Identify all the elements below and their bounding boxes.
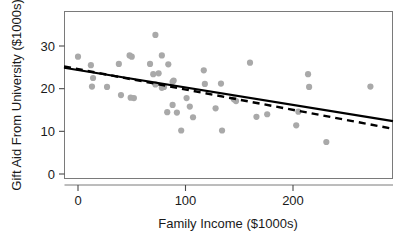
y-axis-tick-label: 20 xyxy=(41,81,55,96)
data-point xyxy=(127,52,133,58)
data-point xyxy=(156,70,162,76)
data-point xyxy=(147,61,153,67)
scatter-plot-figure: 0102030 0100200 Gift Aid From University… xyxy=(0,0,407,238)
data-point xyxy=(264,111,270,117)
data-point xyxy=(187,103,193,109)
data-point xyxy=(305,71,311,77)
y-axis-tick-label: 30 xyxy=(41,39,55,54)
data-point xyxy=(183,95,189,101)
data-point xyxy=(323,139,329,145)
data-point xyxy=(247,60,253,66)
data-point xyxy=(174,109,180,115)
plot-background xyxy=(0,0,407,238)
data-point xyxy=(75,54,81,60)
data-point xyxy=(90,75,96,81)
data-point xyxy=(88,62,94,68)
y-axis-title: Gift Aid From University ($1000s) xyxy=(9,0,24,191)
data-point xyxy=(178,127,184,133)
x-axis-title: Family Income ($1000s) xyxy=(158,216,297,231)
chart-canvas: 0102030 0100200 Gift Aid From University… xyxy=(0,0,407,238)
data-point xyxy=(170,102,176,108)
data-point xyxy=(190,114,196,120)
data-point xyxy=(159,52,165,58)
data-point xyxy=(367,83,373,89)
data-point xyxy=(89,83,95,89)
data-point xyxy=(165,61,171,67)
data-point xyxy=(128,95,134,101)
data-point xyxy=(116,61,122,67)
data-point xyxy=(293,122,299,128)
y-axis-tick-label: 10 xyxy=(41,124,55,139)
data-point xyxy=(152,32,158,38)
x-axis-tick-label: 200 xyxy=(282,193,304,208)
data-point xyxy=(118,92,124,98)
data-point xyxy=(201,67,207,73)
data-point xyxy=(202,81,208,87)
data-point xyxy=(306,84,312,90)
data-point xyxy=(164,109,170,115)
x-axis-tick-label: 100 xyxy=(175,193,197,208)
data-point xyxy=(219,127,225,133)
x-axis-tick-label: 0 xyxy=(74,193,81,208)
data-point xyxy=(104,84,110,90)
data-point xyxy=(253,114,259,120)
data-point xyxy=(150,71,156,77)
y-axis-tick-label: 0 xyxy=(48,167,55,182)
data-point xyxy=(213,105,219,111)
data-point xyxy=(218,80,224,86)
